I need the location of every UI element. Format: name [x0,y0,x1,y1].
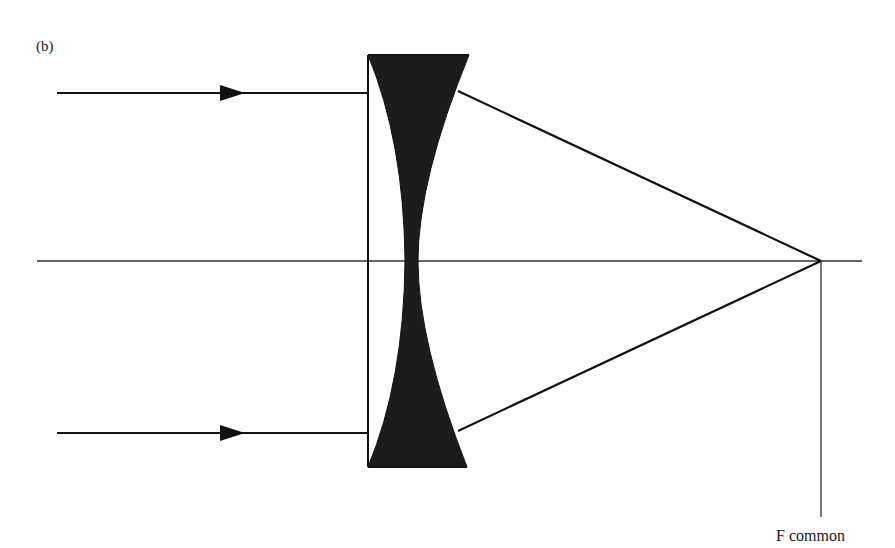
arrow-icon [220,85,245,101]
outgoing-ray-upper [458,91,821,261]
lens-ray-diagram [0,0,895,548]
panel-label: (b) [36,38,54,55]
outgoing-ray-lower [458,261,821,431]
arrow-icon [220,425,245,441]
focal-point-label: F common [776,527,845,545]
